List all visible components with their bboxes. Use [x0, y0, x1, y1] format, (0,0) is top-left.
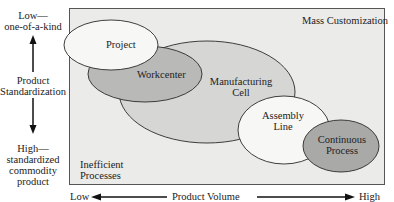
- y-axis-bottom-label-line1: High—: [0, 143, 66, 154]
- x-axis-high-label: High: [359, 191, 380, 202]
- arrow-up-icon: [30, 35, 37, 44]
- region-inefficient-line2: Processes: [80, 170, 124, 181]
- x-axis-title: Product Volume: [172, 191, 240, 202]
- x-axis-low-label: Low: [70, 191, 89, 202]
- arrow-down-icon: [30, 125, 37, 134]
- y-axis-bottom-label-line4: product: [0, 176, 66, 187]
- arrow-right-icon: [345, 194, 355, 201]
- region-mass-customization: Mass Customization: [302, 15, 388, 26]
- y-axis-top-label-line2: one-of-a-kind: [0, 21, 66, 32]
- y-axis-bottom-label-line3: commodity: [0, 165, 66, 176]
- y-axis-bottom-label: High— standardized commodity product: [0, 143, 66, 187]
- label-assembly-line-line2: Line: [253, 121, 313, 132]
- region-inefficient-line1: Inefficient: [80, 159, 124, 170]
- label-continuous-process-line2: Process: [310, 145, 374, 156]
- label-workcenter: Workcenter: [137, 69, 186, 80]
- y-axis-top-label-line1: Low—: [0, 10, 66, 21]
- label-continuous-process-line1: Continuous: [310, 134, 374, 145]
- label-manufacturing-cell-line2: Cell: [206, 87, 276, 98]
- label-manufacturing-cell-line1: Manufacturing: [206, 76, 276, 87]
- region-inefficient-processes: Inefficient Processes: [80, 159, 124, 181]
- arrow-left-icon: [91, 194, 101, 201]
- y-axis-title-line1: Product: [0, 75, 66, 86]
- label-project: Project: [106, 39, 136, 50]
- y-axis-bottom-label-line2: standardized: [0, 154, 66, 165]
- label-assembly-line: Assembly Line: [253, 110, 313, 132]
- y-axis-top-label: Low— one-of-a-kind: [0, 10, 66, 32]
- y-axis-title-line2: Standardization: [0, 86, 66, 97]
- label-continuous-process: Continuous Process: [310, 134, 374, 156]
- y-axis-title: Product Standardization: [0, 75, 66, 97]
- label-assembly-line-line1: Assembly: [253, 110, 313, 121]
- label-manufacturing-cell: Manufacturing Cell: [206, 76, 276, 98]
